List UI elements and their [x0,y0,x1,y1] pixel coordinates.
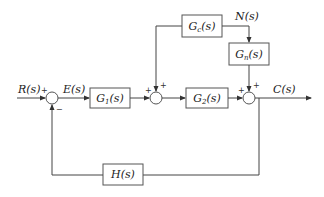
g2-label: G2(s) [193,92,221,106]
disturbance-signal-label: N(s) [234,10,259,23]
gc-label: Gc(s) [189,20,216,34]
output-signal-label: C(s) [273,83,296,96]
error-signal-label: E(s) [62,83,85,96]
summing-junction-2 [150,92,162,104]
summing-junction-1 [46,92,58,104]
sum3-plus-left-sign: + [238,86,245,95]
gn-label: Gn(s) [235,48,263,62]
feedback-wire-right [143,98,259,175]
sum2-plus-top-sign: + [160,81,167,90]
h-label: H(s) [110,168,135,181]
input-signal-label: R(s) [17,83,41,96]
disturbance-wire [222,26,249,42]
summing-junction-3 [243,92,255,104]
sum2-plus-left-sign: + [145,86,152,95]
sum1-plus-sign: + [41,86,48,95]
sum1-minus-sign: − [56,105,63,114]
sum3-plus-top-sign: + [253,81,260,90]
block-diagram: R(s) + − E(s) G1(s) + + Gc(s) N(s) Gn(s)… [0,0,324,197]
feedback-wire-left [52,105,103,175]
g1-label: G1(s) [96,92,124,106]
